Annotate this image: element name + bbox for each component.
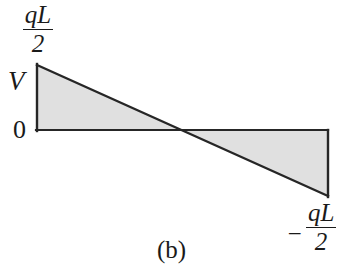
positive-peak-label: qL 2 [14, 2, 62, 57]
axis-label-v: V [8, 66, 25, 97]
figure-caption: (b) [0, 236, 343, 264]
negative-peak-numerator: qL [306, 200, 336, 228]
positive-peak-numerator: qL [23, 2, 53, 30]
positive-peak-fraction: qL 2 [23, 2, 53, 57]
axis-label-zero: 0 [13, 115, 26, 145]
positive-peak-denominator: 2 [23, 30, 53, 57]
shear-force-diagram-figure: qL 2 V 0 − qL 2 (b) [0, 0, 343, 275]
